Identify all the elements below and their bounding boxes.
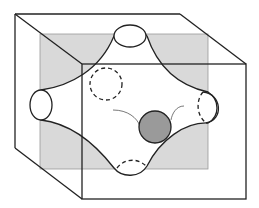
sphere bbox=[139, 111, 171, 143]
neck-top bbox=[114, 25, 146, 47]
saddle-surface-diagram bbox=[0, 0, 259, 208]
neck-left bbox=[30, 90, 52, 120]
